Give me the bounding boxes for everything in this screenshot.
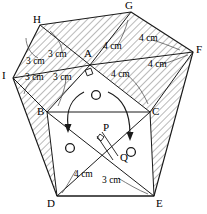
dimension-label-2: 3 cm [48, 50, 67, 60]
fold-arrow-right [108, 92, 130, 134]
dimension-label-3: 3 cm [25, 73, 44, 83]
vertex-label-A: A [84, 48, 92, 59]
segment-pq [97, 132, 118, 160]
dimension-label-8: 4 cm [148, 60, 167, 70]
fold-arrow-left [68, 92, 84, 126]
circle-markers [66, 91, 136, 157]
vertex-label-I: I [2, 70, 6, 81]
vertex-label-F: F [196, 44, 202, 55]
vertex-label-Q: Q [120, 152, 128, 163]
hatched-flaps [13, 12, 193, 196]
vertex-label-C: C [152, 106, 159, 117]
dimension-label-4: 3 cm [53, 73, 72, 83]
vertex-label-G: G [125, 0, 133, 11]
dimension-label-9: 4 cm [74, 170, 93, 180]
vertex-label-D: D [47, 198, 55, 209]
diagram-canvas: A B C D E F G H I P Q 3 cm 3 cm 3 cm 3 c… [0, 0, 207, 214]
arrowhead-left [65, 124, 72, 133]
arrowhead-right [127, 132, 134, 141]
dimension-label-7: 4 cm [111, 70, 130, 80]
diagonal-BE [47, 112, 154, 196]
dimension-label-1: 3 cm [26, 57, 45, 67]
vertex-label-E: E [156, 198, 163, 209]
dimension-label-6: 4 cm [139, 34, 158, 44]
vertex-label-B: B [37, 106, 44, 117]
vertex-label-H: H [33, 14, 41, 25]
dimension-label-5: 4 cm [103, 42, 122, 52]
dimension-label-10: 3 cm [102, 176, 121, 186]
circle-marker-left [66, 144, 75, 153]
vertex-label-P: P [103, 122, 109, 133]
circle-marker-top [92, 91, 101, 100]
right-angle-mark-a [85, 68, 93, 76]
